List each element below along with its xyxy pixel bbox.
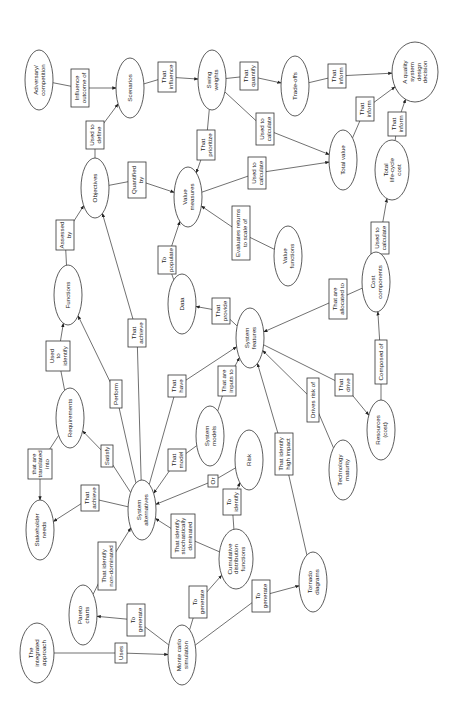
- node-label-line: Scenarios: [126, 74, 133, 102]
- node-data: Data: [168, 274, 196, 334]
- node-label: Adversary/competition: [32, 64, 46, 96]
- edge-label-text: That identifystochasticallydominated: [173, 517, 193, 555]
- node-label-line: diagrams: [313, 569, 320, 594]
- node-label-line: alternatives: [142, 494, 149, 526]
- edge-label: Composed of: [375, 340, 387, 384]
- edge-label-text-line: identify: [232, 491, 239, 512]
- node-label: Swingweights: [205, 70, 219, 92]
- edge-label: Topopulate: [158, 246, 176, 274]
- node-label-line: Risk: [245, 453, 252, 466]
- edge-label-text-line: influence: [167, 64, 174, 89]
- edge-label-text-line: by: [65, 231, 72, 238]
- edge-label: Quantifiedby: [128, 162, 146, 198]
- node-system-alternatives: Systemalternatives: [128, 480, 156, 540]
- edge-label-text-line: define: [95, 126, 102, 143]
- edge-label-text-line: calculate: [380, 225, 387, 250]
- node-label-line: needs: [40, 522, 47, 539]
- edge-label: That identifystochasticallydominated: [171, 514, 195, 558]
- edge-line: [137, 333, 141, 480]
- edge-label-text-line: drive: [344, 378, 351, 392]
- edge-label-text: Uses: [117, 646, 124, 660]
- edge-arrow: [102, 213, 137, 333]
- node-value-measures: Valuemeasures: [174, 167, 202, 227]
- node-requirements: Requirements: [56, 388, 84, 448]
- node-tornado-diagrams: Tornadodiagrams: [299, 552, 327, 612]
- edge-label: Or: [208, 475, 218, 487]
- edge-label: Satisfy: [101, 445, 113, 467]
- edge-label-text-line: provide: [221, 300, 228, 321]
- edge-label: Thatinfluence: [158, 62, 176, 92]
- edge-arrow: [264, 299, 338, 332]
- edge-label: Togenerate: [252, 580, 270, 612]
- node-monte-carlo: Monte carlosimulation: [168, 625, 196, 685]
- edge-label-text-line: Drives risk of: [309, 382, 316, 418]
- edge-label-text: Thathave: [170, 379, 184, 393]
- edge-label: Thatprioritize: [197, 130, 215, 160]
- edge-label: Evaluates returnsto scale of: [232, 206, 250, 260]
- node-label-line: approach: [40, 640, 47, 666]
- edge-label: Thatinform: [356, 97, 374, 121]
- node-quality-decision: A qualitysystemdesigndecision: [392, 42, 438, 102]
- edge-label: Togenerate: [189, 586, 207, 618]
- node-label-line: models: [210, 426, 217, 446]
- edge-label: Thatmodel: [168, 449, 186, 471]
- edge-label: Thatquantify: [240, 62, 258, 90]
- node-label: Scenarios: [126, 74, 133, 102]
- edge-label-text: Or: [209, 478, 216, 485]
- edge-arrow: [257, 162, 329, 173]
- edge-label: Drives risk of: [307, 378, 319, 422]
- node-label-line: (cost): [381, 422, 388, 437]
- node-value-functions: Valuefunctions: [274, 226, 302, 286]
- edge-label-text-line: to scale of: [241, 219, 248, 247]
- node-label-line: components: [376, 265, 383, 299]
- node-label-line: maturity: [343, 458, 350, 481]
- edge-label-text: Used tocalculate: [373, 225, 387, 250]
- node-label: Paretocharts: [76, 605, 90, 624]
- edge-label-text-line: populate: [167, 248, 174, 272]
- node-total-lcc: Totallife-cyclecost: [375, 140, 409, 200]
- edge-label: That identifynon-dominated: [98, 542, 116, 590]
- edge-line: [264, 345, 344, 385]
- node-label: Monte carlosimulation: [175, 638, 189, 671]
- edge-label-text-line: Perform: [112, 383, 119, 405]
- node-technology-maturity: Technologymaturity: [329, 440, 357, 500]
- node-label-line: simulation: [182, 641, 189, 669]
- node-label: Tornadodiagrams: [306, 569, 320, 594]
- edge-label-text-line: achieve: [90, 487, 97, 509]
- node-label: Objectives: [91, 174, 98, 203]
- edge-label-text: That areinputs to: [220, 369, 234, 393]
- edge-label-text: Used tocalculate: [250, 160, 264, 185]
- edge-label-text-line: inform: [337, 67, 344, 84]
- edge-label: Assessedby: [56, 220, 74, 250]
- edge-label: Usedtoidentify: [46, 341, 70, 371]
- edge-label-text-line: Uses: [117, 646, 124, 660]
- edge-label-text: Composed of: [377, 343, 384, 380]
- edge-label: Used tocalculate: [248, 157, 266, 189]
- node-objectives: Objectives: [81, 158, 109, 218]
- edge-label-text: Used todefine: [88, 124, 102, 146]
- edge-label: Thatprovide: [212, 298, 230, 324]
- edge-arrow: [121, 653, 168, 655]
- node-the-integrated-approach: Theintegratedapproach: [20, 623, 54, 683]
- node-label-line: functions: [239, 547, 246, 572]
- node-label-line: Trade-offs: [291, 72, 298, 100]
- edge-label: That areinputs to: [218, 366, 236, 396]
- edge-label-text: Perform: [112, 383, 119, 405]
- node-resources: Resources(cost): [367, 400, 395, 460]
- edge-label-text-line: calculate: [257, 160, 264, 185]
- edge-label: Thatachieve: [128, 319, 146, 347]
- concept-map-diagram: Influenceoutcome ofThatinfluenceThatquan…: [0, 0, 449, 718]
- node-label: Systemfeatures: [243, 327, 257, 349]
- node-label-line: Objectives: [91, 174, 98, 203]
- edge-label: Used tocalculate: [371, 222, 389, 254]
- edge-label-text-line: Or: [209, 478, 216, 485]
- edge-label-text-line: achieve: [137, 322, 144, 344]
- edge-label-text-line: into: [43, 458, 50, 469]
- edge-arrow: [263, 351, 313, 400]
- edge-label-text-line: quantify: [249, 64, 256, 87]
- edge-label-text-line: have: [177, 379, 184, 393]
- edge-label-text-line: generate: [261, 583, 268, 608]
- edge-label: Thatinform: [328, 64, 346, 88]
- edge-label: Toidentify: [223, 489, 241, 515]
- edge-label-text-line: outcome of: [80, 72, 87, 103]
